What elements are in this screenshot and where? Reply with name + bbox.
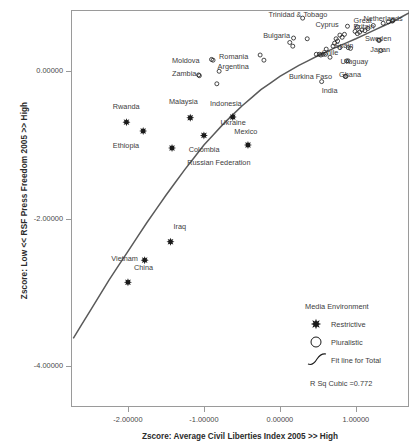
y-tick-mark: [66, 366, 71, 367]
point-label: Vietnam: [111, 255, 138, 263]
point-label: China: [134, 264, 153, 272]
y-tick-label: 0.00000: [5, 66, 63, 75]
r-squared-annotation: R Sq Cubic =0.772: [310, 379, 372, 388]
point-label: Uruguay: [341, 58, 369, 66]
point-label: Iraq: [174, 223, 187, 231]
point-label: Zambia: [172, 70, 196, 78]
y-tick-label: -2.00000: [5, 214, 63, 223]
point-label: Russian Federation: [187, 159, 250, 167]
x-tick-mark: [128, 407, 129, 412]
point-label: Japan: [370, 46, 390, 54]
point-label: Cyprus: [316, 21, 339, 29]
y-tick-mark: [66, 219, 71, 220]
x-axis-title: Zscore: Average Civil Liberties Index 20…: [71, 432, 409, 441]
point-label: Moldova: [172, 57, 200, 65]
y-axis-title: Zscore: Low << RSF Press Freedom 2005 >>…: [20, 81, 29, 321]
point-label: Burkina Faso: [289, 73, 332, 81]
x-tick-label: -2.00000: [98, 415, 158, 424]
x-tick-label: 0.00000: [250, 415, 310, 424]
x-tick-mark: [356, 407, 357, 412]
point-label: Mexico: [234, 128, 257, 136]
point-label: Bulgaria: [263, 32, 290, 40]
point-label: Trinidad & Tobago: [269, 11, 328, 19]
point-label: India: [322, 87, 338, 95]
point-label: Colombia: [189, 146, 220, 154]
point-label: Britain: [354, 23, 375, 31]
point-label: Indonesia: [210, 100, 242, 108]
x-tick-mark: [280, 407, 281, 412]
y-tick-mark: [66, 71, 71, 72]
y-tick-label: -4.00000: [5, 361, 63, 370]
x-tick-label: -1.00000: [174, 415, 234, 424]
point-label: Ukraine: [221, 119, 246, 127]
legend-item-restrictive-label: Restrictive: [331, 320, 366, 329]
point-label: Chile: [322, 49, 339, 57]
legend-item-fitline-label: Fit line for Total: [331, 356, 381, 365]
x-tick-mark: [204, 407, 205, 412]
point-label: Argentina: [218, 63, 249, 71]
point-label: Ghana: [339, 71, 361, 79]
point-label: Rwanda: [113, 103, 140, 111]
point-label: Romania: [219, 53, 248, 61]
legend-title: Media Environment: [305, 302, 369, 311]
legend-item-pluralistic-label: Pluralistic: [331, 338, 363, 347]
point-label: Ethiopia: [113, 142, 139, 150]
point-label: Sweden: [365, 35, 391, 43]
point-label: Malaysia: [169, 98, 198, 106]
scatter-plot-figure: Zscore: Low << RSF Press Freedom 2005 >>…: [0, 0, 417, 443]
x-tick-label: 1.00000: [326, 415, 386, 424]
